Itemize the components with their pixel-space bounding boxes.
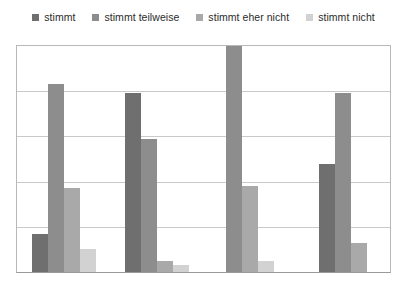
bar [141,139,157,272]
bar [32,234,48,272]
legend-item-stimmt-nicht: stimmt nicht [306,12,375,23]
bar [173,265,189,272]
bar [125,93,141,272]
legend-square-icon [92,14,99,21]
legend-item-label: stimmt teilweise [104,12,179,23]
bar [48,84,64,272]
bar [64,188,80,272]
bar [335,93,351,272]
legend-item-stimmt: stimmt [32,12,75,23]
legend-square-icon [306,14,313,21]
legend-item-stimmt-eher-nicht: stimmt eher nicht [196,12,289,23]
bar [351,243,367,272]
bar [157,261,173,272]
bar [226,46,242,272]
bar-group [17,46,110,272]
legend-item-label: stimmt eher nicht [208,12,289,23]
legend-square-icon [196,14,203,21]
bar-group [297,46,390,272]
legend-item-stimmt-teilweise: stimmt teilweise [92,12,179,23]
legend-square-icon [32,14,39,21]
legend-item-label: stimmt nicht [318,12,375,23]
legend-item-label: stimmt [44,12,75,23]
bar [80,249,96,272]
bar [242,186,258,272]
bar-group [204,46,297,272]
plot-area [16,45,391,273]
bar-chart: stimmt stimmt teilweise stimmt eher nich… [0,0,407,292]
bar-group [110,46,203,272]
bars-layer [17,46,390,272]
chart-legend: stimmt stimmt teilweise stimmt eher nich… [0,12,407,23]
bar [319,164,335,272]
bar [258,261,274,272]
